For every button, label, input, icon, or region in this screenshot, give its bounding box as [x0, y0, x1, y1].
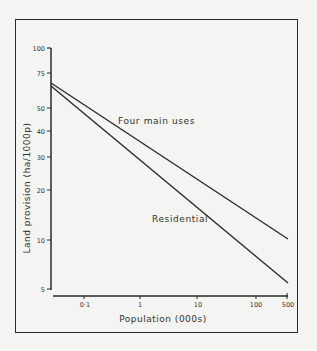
x-tick-1: 1 [138, 301, 142, 309]
y-tick-40: 40 [37, 128, 45, 136]
x-axis-title: Population (000s) [119, 314, 207, 324]
y-tick-75: 75 [37, 70, 45, 78]
x-tick-0.1: 0·1 [80, 301, 90, 309]
y-tick-30: 30 [37, 154, 45, 162]
series-label-residential: Residential [152, 214, 208, 224]
y-tick-5: 5 [41, 286, 45, 294]
x-tick-10: 10 [194, 301, 202, 309]
x-tick-100: 100 [250, 301, 262, 309]
series-label-four-main-uses: Four main uses [118, 116, 195, 126]
x-tick-500: 500 [282, 301, 294, 309]
y-tick-50: 50 [37, 105, 45, 113]
y-tick-10: 10 [37, 237, 45, 245]
y-tick-20: 20 [37, 187, 45, 195]
y-tick-100: 100 [33, 45, 45, 53]
y-axis-title: Land provision (ha/1000p) [22, 122, 32, 253]
chart-plot: 100 75 50 40 30 20 10 5 0·1 1 10 100 500… [0, 0, 317, 351]
